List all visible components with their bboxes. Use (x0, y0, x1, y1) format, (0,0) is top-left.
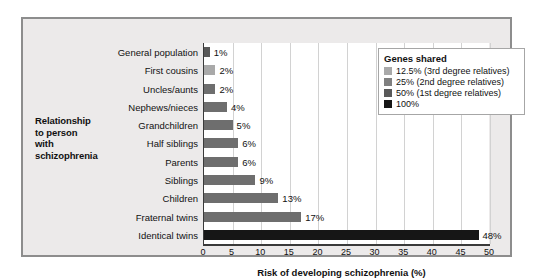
bar-value-label: 5% (237, 120, 251, 131)
bar-value-label: 2% (219, 65, 233, 76)
bar-value-label: 17% (305, 211, 324, 222)
x-axis-title: Risk of developing schizophrenia (%) (23, 267, 533, 278)
x-tick-label: 20 (312, 247, 322, 257)
x-tick-label: 10 (255, 247, 265, 257)
bar-value-label: 1% (214, 47, 228, 58)
x-tick-label: 35 (398, 247, 408, 257)
bar (204, 230, 479, 240)
bar (204, 212, 301, 222)
bar-row: Grandchildren5% (204, 116, 489, 134)
category-label: Fraternal twins (136, 211, 198, 222)
bar-row: Identical twins48% (204, 226, 489, 244)
category-label: General population (118, 47, 198, 58)
bar (204, 193, 278, 203)
legend-title: Genes shared (384, 53, 519, 64)
bar-value-label: 4% (231, 101, 245, 112)
legend-item-label: 12.5% (3rd degree relatives) (396, 66, 510, 76)
x-tick-label: 45 (455, 247, 465, 257)
bar (204, 102, 227, 112)
y-axis-title: Relationshipto personwithschizophrenia (35, 115, 145, 161)
x-tick-label: 5 (229, 247, 234, 257)
category-label: Half siblings (147, 138, 198, 149)
chart-figure: General population1%First cousins2%Uncle… (21, 17, 512, 257)
bar-row: Parents6% (204, 153, 489, 171)
legend-item: 100% (384, 99, 519, 109)
legend-items: 12.5% (3rd degree relatives)25% (2nd deg… (384, 66, 519, 109)
legend-swatch-icon (384, 89, 392, 97)
category-label: Identical twins (138, 229, 198, 240)
bar-row: Children13% (204, 189, 489, 207)
y-axis-title-line: to person (35, 127, 145, 139)
bar-value-label: 13% (282, 193, 301, 204)
category-label: Children (163, 193, 198, 204)
y-axis-title-line: with (35, 138, 145, 150)
bar (204, 157, 238, 167)
bar (204, 47, 210, 57)
legend-item-label: 100% (396, 99, 419, 109)
category-label: First cousins (145, 65, 198, 76)
legend: Genes shared 12.5% (3rd degree relatives… (378, 48, 525, 115)
x-tick-label: 40 (427, 247, 437, 257)
category-label: Siblings (165, 175, 198, 186)
legend-item: 25% (2nd degree relatives) (384, 77, 519, 87)
bar-value-label: 9% (259, 175, 273, 186)
legend-swatch-icon (384, 67, 392, 75)
bar-row: Fraternal twins17% (204, 207, 489, 225)
category-label: Grandchildren (138, 120, 198, 131)
x-tick-label: 50 (484, 247, 494, 257)
bar-value-label: 6% (242, 156, 256, 167)
legend-item-label: 25% (2nd degree relatives) (396, 77, 504, 87)
legend-item-label: 50% (1st degree relatives) (396, 88, 501, 98)
bar (204, 84, 215, 94)
bar-value-label: 6% (242, 138, 256, 149)
legend-swatch-icon (384, 78, 392, 86)
x-axis-title-text: Risk of developing schizophrenia (%) (257, 267, 425, 278)
y-axis-title-line: schizophrenia (35, 150, 145, 162)
x-tick-label: 25 (341, 247, 351, 257)
y-axis-title-line: Relationship (35, 115, 145, 127)
bar (204, 138, 238, 148)
x-tick-label: 0 (200, 247, 205, 257)
bar-value-label: 2% (219, 83, 233, 94)
bar (204, 120, 233, 130)
legend-item: 12.5% (3rd degree relatives) (384, 66, 519, 76)
legend-swatch-icon (384, 100, 392, 108)
bar (204, 175, 255, 185)
category-label: Uncles/aunts (143, 83, 198, 94)
x-axis-line (203, 244, 490, 246)
bar (204, 65, 215, 75)
bar-row: Half siblings6% (204, 134, 489, 152)
category-label: Parents (165, 156, 198, 167)
bar-value-label: 48% (483, 229, 502, 240)
x-tick-label: 15 (284, 247, 294, 257)
category-label: Nephews/nieces (128, 101, 198, 112)
legend-item: 50% (1st degree relatives) (384, 88, 519, 98)
bar-row: Siblings9% (204, 171, 489, 189)
x-tick-label: 30 (370, 247, 380, 257)
